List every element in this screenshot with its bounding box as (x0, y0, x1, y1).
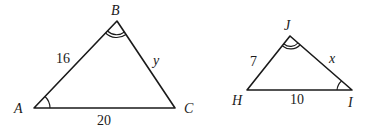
triangle-hji-outline (247, 36, 352, 90)
side-ji-label: x (328, 51, 336, 66)
triangle-hji: H J I 7 x 10 (231, 18, 354, 110)
side-ac-label: 20 (97, 113, 111, 128)
vertex-j-label: J (284, 18, 291, 33)
vertex-i-label: I (347, 95, 354, 110)
side-bc-label: y (151, 53, 160, 68)
vertex-a-label: A (13, 101, 23, 116)
triangle-abc: A B C 16 y 20 (13, 3, 194, 128)
vertex-c-label: C (184, 101, 194, 116)
angle-a-arc (45, 97, 50, 109)
side-hi-label: 10 (290, 92, 304, 107)
angle-j-arc-inner (284, 43, 298, 46)
similar-triangles-diagram: A B C 16 y 20 H J I 7 x 10 (0, 0, 366, 129)
angle-i-arc (337, 81, 342, 90)
vertex-h-label: H (231, 93, 243, 108)
angle-j-arc-outer (283, 45, 301, 49)
vertex-b-label: B (111, 3, 120, 18)
side-ab-label: 16 (56, 51, 70, 66)
side-hj-label: 7 (250, 54, 257, 69)
angle-b-arc-inner (108, 31, 125, 35)
